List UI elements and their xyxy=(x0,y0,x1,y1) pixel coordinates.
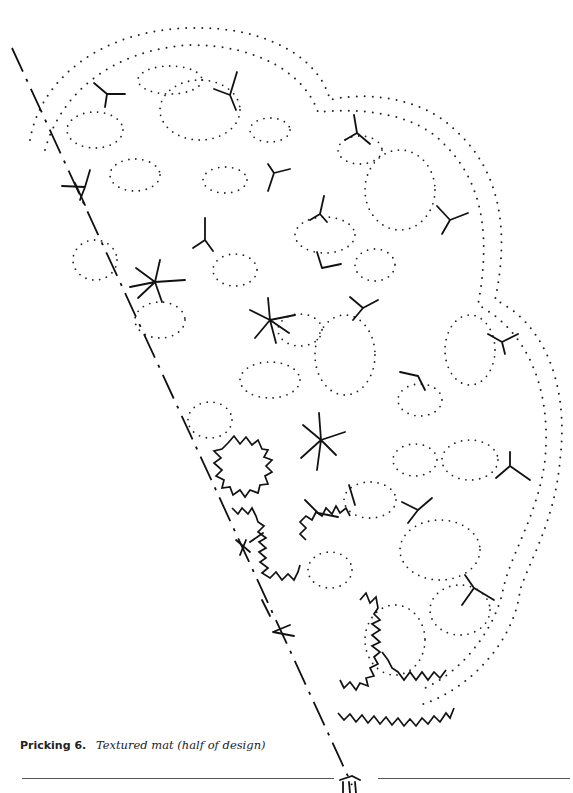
zigzag-cross-right xyxy=(300,506,350,540)
y-tally-markers xyxy=(62,72,530,636)
bottom-rule-left xyxy=(22,778,334,779)
zigzag-motifs xyxy=(214,436,454,726)
star-motif-lower xyxy=(301,413,345,470)
inner-dotted-motifs xyxy=(67,66,498,675)
zigzag-tree xyxy=(340,593,380,690)
outer-dotted-outline xyxy=(30,28,562,705)
zigzag-tree-right xyxy=(382,652,446,680)
star-motif-upper xyxy=(130,260,185,302)
lace-pricking-diagram xyxy=(0,0,573,793)
bottom-rule-right xyxy=(378,778,570,779)
figure-label: Pricking 6. xyxy=(20,739,86,752)
star-motifs xyxy=(130,260,345,470)
center-axis-line xyxy=(12,48,360,793)
star-motif-middle xyxy=(250,298,295,343)
zigzag-cross-upper xyxy=(232,508,300,580)
zigzag-base xyxy=(338,708,454,726)
figure-caption: Pricking 6. Textured mat (half of design… xyxy=(20,738,266,752)
figure-description: Textured mat (half of design) xyxy=(96,738,266,752)
zigzag-flower xyxy=(214,436,272,497)
end-mark xyxy=(340,776,360,793)
